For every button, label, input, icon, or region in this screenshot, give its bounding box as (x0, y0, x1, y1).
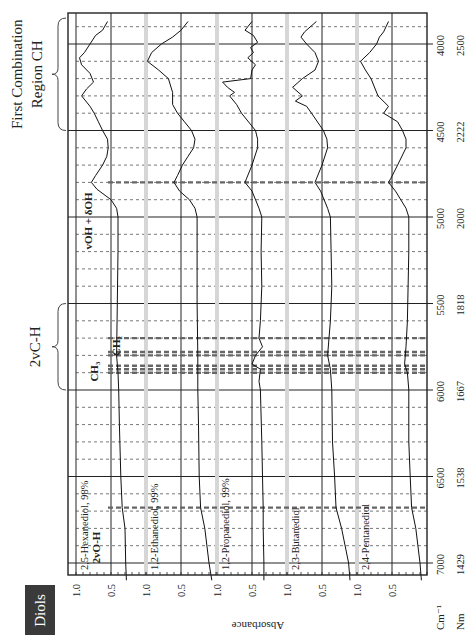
panel-separator (144, 13, 148, 575)
panel-separator (355, 13, 359, 575)
wavenumber-tick-label: 5500 (435, 295, 446, 316)
absorbance-tick-label: 0.5 (106, 584, 117, 597)
band-label: CH₃ (88, 361, 100, 382)
wavelength-tick-label: 1429 (455, 554, 466, 575)
band-label: CH₂ (110, 335, 122, 356)
spectrum-line (361, 22, 422, 581)
wavelength-tick-label: 1538 (455, 468, 466, 489)
wavenumber-tick-label: 4000 (435, 35, 446, 56)
wavenumber-unit-label: Cm⁻¹ (434, 605, 446, 630)
region-brace (52, 18, 66, 130)
absorbance-tick-label: 1.0 (71, 584, 82, 597)
series-label: 2,4-Pentanediol (360, 504, 371, 570)
band-label: 2vO-H (90, 531, 102, 563)
wavelength-tick-label: 1667 (455, 381, 466, 402)
wavelength-tick-label: 2222 (455, 122, 466, 143)
wavenumber-tick-label: 6000 (435, 381, 446, 402)
absorbance-tick-label: 1.0 (282, 584, 293, 597)
spectrum-panels: 2,5-Hexanediol, 98%1,2-Ethanediol, 99%1,… (79, 22, 421, 581)
wavelength-tick-label: 1818 (455, 295, 466, 316)
y-axis-label: Absorbance (232, 620, 285, 632)
wavelength-tick-label: 2000 (455, 208, 466, 229)
panel-separator (285, 13, 289, 575)
series-label: 2,5-Hexanediol, 98% (79, 480, 90, 570)
series-label: 1,2-Propanediol, 99% (220, 478, 231, 570)
region-label: Region CH (29, 40, 45, 108)
region-label: First Combination (9, 19, 25, 129)
absorbance-tick-label: 0.5 (176, 584, 187, 597)
spectrum-line (293, 22, 350, 581)
wavenumber-tick-label: 6500 (435, 468, 446, 489)
absorbance-tick-label: 1.0 (141, 584, 152, 597)
region-label: 2vC-H (27, 326, 43, 367)
absorbance-tick-label: 1.0 (352, 584, 363, 597)
absorbance-tick-label: 0.5 (317, 584, 328, 597)
series-label: 2,3-Butanediol (290, 507, 301, 570)
wavenumber-tick-label: 4500 (435, 122, 446, 143)
region-brace (52, 304, 66, 391)
wavenumber-tick-label: 5000 (435, 208, 446, 229)
wavelength-unit-label: Nm (454, 613, 466, 630)
wavelength-tick-label: 2500 (455, 35, 466, 56)
annotations: First CombinationRegion CH2vC-HvOH + δOH… (9, 18, 122, 563)
band-label: vOH + δOH (82, 192, 94, 250)
wavenumber-tick-label: 7000 (435, 554, 446, 575)
panel-separator (215, 13, 219, 575)
absorbance-tick-label: 1.0 (212, 584, 223, 597)
series-label: 1,2-Ethanediol, 99% (149, 483, 160, 570)
spectra-chart: 2,5-Hexanediol, 98%1,2-Ethanediol, 99%1,… (0, 0, 475, 640)
absorbance-tick-label: 0.5 (387, 584, 398, 597)
absorbance-tick-label: 0.5 (247, 584, 258, 597)
